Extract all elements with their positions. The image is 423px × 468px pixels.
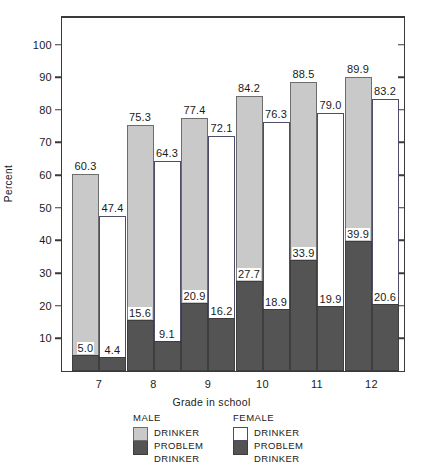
bar-male-grade-10: 84.227.7 [236,96,263,371]
bar-female-grade-10: 76.318.9 [263,122,290,371]
bar-female-problem-grade-8: 9.1 [154,341,181,371]
bar-female-grade-9: 72.116.2 [208,136,235,371]
y-tick-label-40: 40 [39,234,52,246]
bar-female-problem-grade-11: 19.9 [317,306,344,371]
y-tick-label-60: 60 [39,169,52,181]
bar-value-male-drinker-grade-8: 75.3 [129,111,151,123]
x-tick-label-8: 8 [150,378,156,390]
y-tick-label-90: 90 [39,71,52,83]
y-tick-mark-right-60 [398,174,405,176]
bar-value-female-drinker-grade-9: 72.1 [210,122,232,134]
bar-female-grade-7: 47.44.4 [99,216,126,371]
bar-value-male-problem-grade-10: 27.7 [237,268,261,280]
legend-label-male-problem-1: PROBLEM [154,439,203,452]
y-tick-mark-90 [55,76,62,78]
y-tick-label-80: 80 [39,104,52,116]
bar-value-female-problem-grade-11: 19.9 [318,293,342,305]
y-tick-mark-right-10 [398,338,405,340]
legend-swatch-female [233,427,248,455]
bar-female-problem-grade-10: 18.9 [263,309,290,371]
bar-value-female-drinker-grade-10: 76.3 [265,108,287,120]
legend-swatch-female-problem [233,441,248,455]
legend-group-female: FEMALE DRINKER PROBLEM DRINKER [233,412,303,465]
bar-female-grade-12: 83.220.6 [372,99,399,371]
y-tick-label-70: 70 [39,136,52,148]
y-tick-mark-80 [55,109,62,111]
bar-male-grade-9: 77.420.9 [181,118,208,371]
legend-labels-male: DRINKER PROBLEM DRINKER [154,426,203,465]
legend-heading-male: MALE [133,412,203,423]
bar-value-male-drinker-grade-9: 77.4 [183,104,205,116]
bar-male-problem-grade-8: 15.6 [127,320,154,371]
bar-male-problem-grade-9: 20.9 [181,303,208,371]
y-tick-mark-50 [55,207,62,209]
legend-label-male-drinker: DRINKER [154,426,203,439]
y-tick-mark-40 [55,240,62,242]
legend-swatch-female-drinker [233,427,248,441]
bar-value-female-problem-grade-8: 9.1 [158,328,176,340]
y-tick-mark-20 [55,305,62,307]
legend-labels-female: DRINKER PROBLEM DRINKER [254,426,303,465]
bar-value-female-problem-grade-7: 4.4 [104,344,122,356]
bar-male-problem-grade-7: 5.0 [72,355,99,371]
bar-female-problem-grade-12: 20.6 [372,304,399,371]
x-tick-label-9: 9 [205,378,211,390]
bar-female-grade-8: 64.39.1 [154,161,181,371]
bar-value-male-problem-grade-9: 20.9 [182,290,206,302]
y-tick-mark-100 [55,44,62,46]
chart-page: Percent 102030405060708090100 60.35.047.… [0,0,423,468]
bar-value-female-drinker-grade-7: 47.4 [101,202,123,214]
x-tick-label-11: 11 [311,378,323,390]
y-tick-mark-right-30 [398,272,405,274]
y-tick-mark-60 [55,174,62,176]
y-tick-mark-10 [55,338,62,340]
bar-male-problem-grade-11: 33.9 [290,260,317,371]
legend-swatch-male-drinker [133,427,148,441]
bar-value-female-problem-grade-9: 16.2 [209,305,233,317]
x-tick-label-10: 10 [256,378,269,390]
bar-value-male-drinker-grade-10: 84.2 [238,82,260,94]
legend-label-female-drinker: DRINKER [254,426,303,439]
y-tick-mark-right-20 [398,305,405,307]
bar-female-problem-grade-7: 4.4 [99,357,126,371]
y-tick-mark-right-70 [398,142,405,144]
y-tick-mark-right-90 [398,76,405,78]
bar-value-male-drinker-grade-12: 89.9 [347,63,369,75]
bar-male-grade-12: 89.939.9 [345,77,372,371]
bar-value-male-drinker-grade-7: 60.3 [74,160,96,172]
legend-heading-female: FEMALE [233,412,303,423]
bar-male-problem-grade-12: 39.9 [345,241,372,371]
y-tick-label-30: 30 [39,267,52,279]
bar-male-grade-8: 75.315.6 [127,125,154,371]
bar-female-problem-grade-9: 16.2 [208,318,235,371]
y-tick-mark-right-50 [398,207,405,209]
bar-male-grade-11: 88.533.9 [290,82,317,371]
x-tick-label-12: 12 [365,378,378,390]
bar-value-male-problem-grade-8: 15.6 [128,307,152,319]
y-tick-label-100: 100 [33,39,52,51]
bar-value-female-problem-grade-10: 18.9 [264,296,288,308]
bar-value-female-drinker-grade-12: 83.2 [374,85,396,97]
y-tick-label-10: 10 [39,332,52,344]
x-axis-title: Grade in school [0,396,423,408]
bar-male-grade-7: 60.35.0 [72,174,99,371]
y-tick-mark-right-80 [398,109,405,111]
bar-value-female-problem-grade-12: 20.6 [373,291,397,303]
legend-label-male-problem-2: DRINKER [154,452,203,465]
legend-group-male: MALE DRINKER PROBLEM DRINKER [133,412,203,465]
bar-value-female-drinker-grade-8: 64.3 [156,147,178,159]
legend-label-female-problem-1: PROBLEM [254,439,303,452]
legend-label-female-problem-2: DRINKER [254,452,303,465]
bar-male-problem-grade-10: 27.7 [236,281,263,371]
bar-value-male-problem-grade-11: 33.9 [291,247,315,259]
y-tick-mark-right-100 [398,44,405,46]
title-remnant [0,0,423,8]
x-tick-label-7: 7 [96,378,102,390]
bar-value-male-drinker-grade-11: 88.5 [292,68,314,80]
y-tick-mark-30 [55,272,62,274]
legend-swatch-male [133,427,148,455]
y-tick-label-50: 50 [39,202,52,214]
y-tick-label-20: 20 [39,300,52,312]
bar-female-grade-11: 79.019.9 [317,113,344,371]
y-tick-mark-right-40 [398,240,405,242]
